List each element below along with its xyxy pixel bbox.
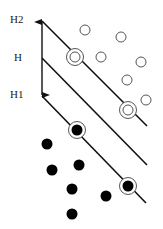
open-point (122, 75, 132, 85)
filled-support-vector (123, 181, 134, 192)
support-vector-ring (120, 102, 137, 119)
open-point (136, 57, 146, 67)
filled-point (67, 184, 78, 195)
open-point (96, 52, 106, 62)
svm-margin-diagram (0, 0, 163, 229)
filled-point (101, 191, 112, 202)
open-point (80, 25, 90, 35)
filled-point (67, 209, 78, 220)
filled-support-vector (72, 125, 83, 136)
support-vector-ring (67, 49, 84, 66)
data-points (42, 25, 152, 220)
filled-point (74, 160, 85, 171)
open-point (116, 32, 126, 42)
filled-point (47, 165, 58, 176)
open-point (141, 95, 151, 105)
filled-point (42, 139, 53, 150)
